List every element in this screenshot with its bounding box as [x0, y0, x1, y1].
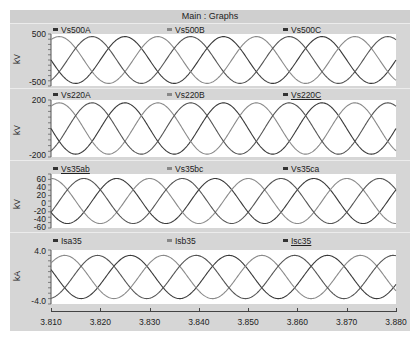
legend-item-vs220a[interactable]: Vs220A [53, 90, 91, 100]
graphs-window: Main : Graphs Vs500A Vs500B Vs500C kV 50… [10, 10, 410, 330]
legend-label: Vs35ca [291, 164, 319, 174]
x-tick-mark [100, 308, 101, 312]
graph-panel-vs500[interactable]: Vs500A Vs500B Vs500C kV 500 -500 [10, 23, 410, 89]
legend-item-vs220c[interactable]: Vs220C [283, 90, 321, 100]
x-tick-mark [396, 308, 397, 312]
legend-item-vs35bc[interactable]: Vs35bc [167, 164, 203, 174]
legend-swatch-icon [283, 93, 288, 96]
x-tick-label: 3.810 [31, 317, 71, 327]
y-tick: -60 [16, 222, 46, 232]
plot-area-vs500[interactable] [51, 34, 396, 86]
legend-swatch-icon [167, 28, 172, 31]
waveform-Vs220C [51, 103, 396, 154]
plot-area-vs35[interactable] [51, 174, 396, 228]
x-tick-mark [150, 308, 151, 312]
x-tick-label: 3.850 [228, 317, 268, 327]
legend-item-isb35[interactable]: Isb35 [167, 236, 196, 246]
graph-panel-vs220[interactable]: Vs220A Vs220B Vs220C kV 200 -200 [10, 88, 410, 161]
legend-label: Vs220C [291, 90, 321, 100]
legend-swatch-icon [167, 239, 172, 242]
x-tick-label: 3.840 [179, 317, 219, 327]
y-axis-label: kA [12, 266, 22, 286]
waveform-Isa35 [51, 255, 396, 298]
waveform-chart [51, 174, 396, 228]
legend-label: Vs35bc [175, 164, 203, 174]
plot-area-vs220[interactable] [51, 100, 396, 157]
legend-item-vs220b[interactable]: Vs220B [167, 90, 205, 100]
y-tick-bottom: -200 [16, 150, 46, 160]
legend-label: Isc35 [291, 236, 311, 246]
legend-swatch-icon [167, 167, 172, 170]
x-tick-mark [248, 308, 249, 312]
legend-swatch-icon [53, 28, 58, 31]
x-tick-mark [199, 308, 200, 312]
legend-swatch-icon [53, 93, 58, 96]
x-tick-label: 3.860 [277, 317, 317, 327]
window-title: Main : Graphs [10, 10, 410, 24]
legend-item-isa35[interactable]: Isa35 [53, 236, 82, 246]
x-tick-mark [347, 308, 348, 312]
legend-label: Vs35ab [61, 164, 90, 174]
waveform-chart [51, 34, 396, 86]
legend-swatch-icon [283, 239, 288, 242]
legend-swatch-icon [283, 28, 288, 31]
x-tick-label: 3.870 [327, 317, 367, 327]
graph-panel-is35[interactable]: Isa35 Isb35 Isc35 kA 4.0 -4.0 3.8103.820… [10, 232, 410, 331]
y-tick-bottom: -4.0 [16, 296, 46, 306]
legend-swatch-icon [167, 93, 172, 96]
waveform-Isb35 [51, 255, 396, 298]
y-axis-label: kV [12, 120, 22, 140]
legend-label: Vs220B [175, 90, 205, 100]
waveform-Vs500A [51, 37, 396, 84]
waveform-chart [51, 250, 396, 304]
y-tick-top: 200 [16, 95, 46, 105]
waveform-Isc35 [51, 255, 396, 298]
x-tick-label: 3.830 [130, 317, 170, 327]
waveform-chart [51, 100, 396, 157]
legend-swatch-icon [53, 239, 58, 242]
legend-swatch-icon [53, 167, 58, 170]
waveform-Vs500B [51, 37, 396, 84]
legend-item-isc35[interactable]: Isc35 [283, 236, 311, 246]
y-tick-bottom: -500 [16, 77, 46, 87]
plot-area-is35[interactable] [51, 250, 396, 304]
graph-panel-vs35[interactable]: Vs35ab Vs35bc Vs35ca kV 60 40 20 0 -20 -… [10, 160, 410, 233]
x-tick-label: 3.880 [376, 317, 416, 327]
legend-item-vs35ca[interactable]: Vs35ca [283, 164, 319, 174]
legend-label: Isb35 [175, 236, 196, 246]
legend-label: Vs220A [61, 90, 91, 100]
waveform-Vs220B [51, 103, 396, 154]
legend-swatch-icon [283, 167, 288, 170]
x-tick-mark [297, 308, 298, 312]
waveform-Vs35bc [51, 179, 396, 224]
y-tick-top: 4.0 [16, 246, 46, 256]
x-tick-mark [51, 308, 52, 312]
waveform-Vs500C [51, 37, 396, 84]
legend-label: Isa35 [61, 236, 82, 246]
y-tick-top: 500 [16, 29, 46, 39]
waveform-Vs220A [51, 103, 396, 154]
legend-item-vs35ab[interactable]: Vs35ab [53, 164, 90, 174]
y-axis-label: kV [12, 49, 22, 69]
x-tick-label: 3.820 [80, 317, 120, 327]
x-axis [51, 311, 396, 312]
